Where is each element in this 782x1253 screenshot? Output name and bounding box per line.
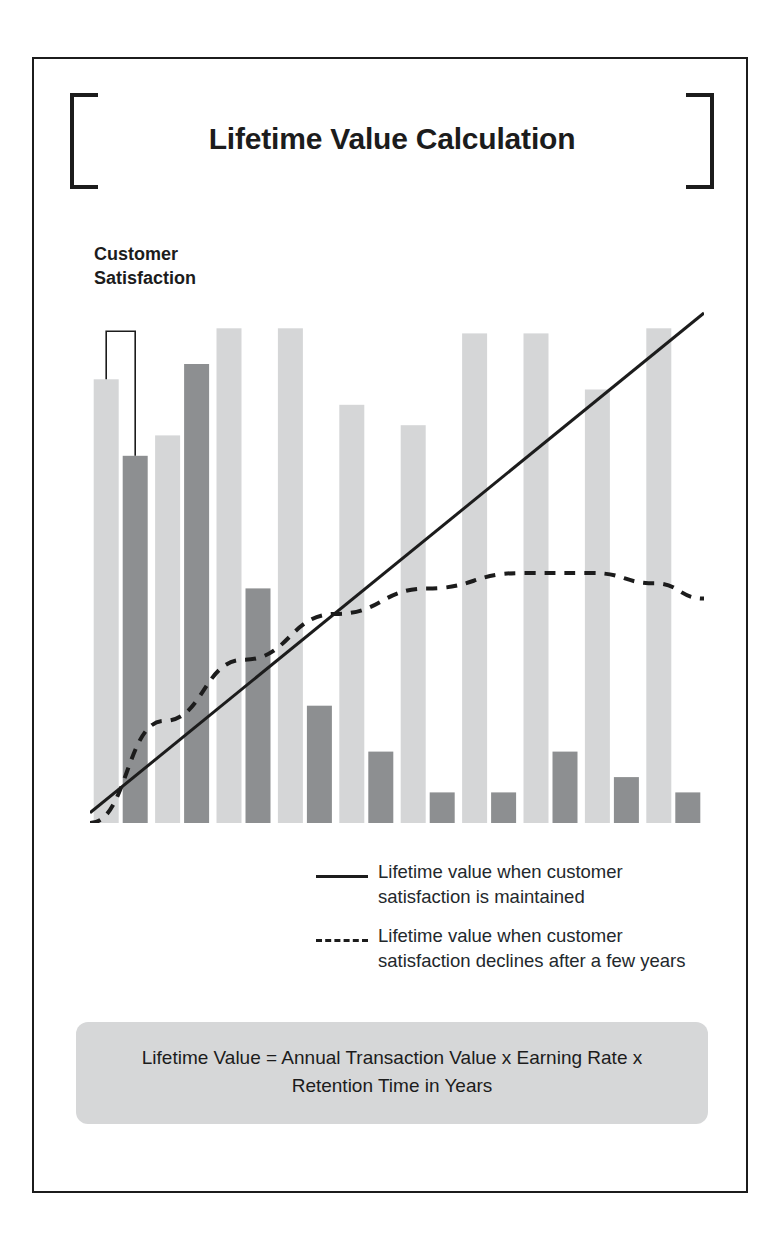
legend-item-solid: Lifetime value when customer satisfactio… xyxy=(316,859,716,909)
bar-dark xyxy=(675,792,700,823)
bar-dark xyxy=(246,588,271,823)
declining-value-curve xyxy=(90,573,704,823)
right-bracket-icon xyxy=(686,93,714,189)
legend-item-dashed: Lifetime value when customer satisfactio… xyxy=(316,923,716,973)
left-bracket-icon xyxy=(70,93,98,189)
bar-light xyxy=(401,425,426,823)
formula-text: Lifetime Value = Annual Transaction Valu… xyxy=(142,1047,642,1096)
dashed-line-swatch-icon xyxy=(316,923,368,947)
page-title: Lifetime Value Calculation xyxy=(114,119,670,159)
customer-satisfaction-label: Customer Satisfaction xyxy=(94,242,196,290)
bar-light xyxy=(646,328,671,823)
bar-dark xyxy=(307,706,332,823)
title-row: Lifetime Value Calculation xyxy=(34,93,750,193)
bar-light xyxy=(462,333,487,823)
formula-box: Lifetime Value = Annual Transaction Valu… xyxy=(76,1022,708,1124)
bar-dark xyxy=(553,752,578,823)
bar-dark xyxy=(184,364,209,823)
bar-light xyxy=(217,328,242,823)
bar-dark xyxy=(614,777,639,823)
chart-canvas xyxy=(90,307,704,823)
bar-dark xyxy=(491,792,516,823)
poster-frame: Lifetime Value Calculation Customer Sati… xyxy=(32,57,748,1193)
legend-label-dashed: Lifetime value when customer satisfactio… xyxy=(378,923,716,973)
maintained-value-line xyxy=(90,313,704,813)
bar-light xyxy=(524,333,549,823)
bar-light xyxy=(585,390,610,824)
bar-light xyxy=(94,379,119,823)
overlay-lines-group xyxy=(90,313,704,823)
chart-legend: Lifetime value when customer satisfactio… xyxy=(316,859,716,987)
bar-dark xyxy=(430,792,455,823)
lifetime-value-chart xyxy=(90,307,704,823)
legend-label-solid: Lifetime value when customer satisfactio… xyxy=(378,859,716,909)
bar-light xyxy=(155,435,180,823)
bar-light xyxy=(278,328,303,823)
page-root: Lifetime Value Calculation Customer Sati… xyxy=(0,0,782,1253)
solid-line-swatch-icon xyxy=(316,859,368,883)
bar-dark xyxy=(368,752,393,823)
